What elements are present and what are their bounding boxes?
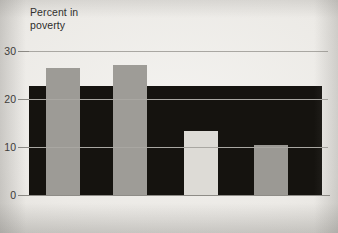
bar-white-americans [254, 145, 288, 195]
y-tick-mark-20 [18, 99, 29, 100]
gridline-20 [29, 99, 328, 100]
bar-hispanics [113, 65, 147, 195]
y-axis-title-line-2: poverty [30, 19, 150, 32]
y-tick-label-10: 10 [4, 141, 16, 153]
y-tick-mark-0 [18, 195, 29, 196]
y-axis-title-line-1: Percent in [30, 6, 150, 19]
bar-african-americans [46, 68, 80, 195]
y-axis-title: Percent in poverty [30, 6, 150, 31]
gridline-10 [29, 147, 328, 148]
gridline-30 [29, 51, 328, 52]
axis-baseline-0 [29, 195, 330, 196]
plot-area: 30 20 10 0 African Americans Hispanics A… [29, 51, 322, 195]
poverty-bar-chart-figure: Percent in poverty 30 20 10 0 African Am… [0, 0, 338, 233]
y-tick-mark-10 [18, 147, 29, 148]
y-tick-label-20: 20 [4, 93, 16, 105]
bar-asian-americans [184, 131, 218, 195]
y-tick-mark-30 [18, 51, 29, 52]
y-tick-label-30: 30 [4, 45, 16, 57]
y-tick-label-0: 0 [10, 189, 16, 201]
